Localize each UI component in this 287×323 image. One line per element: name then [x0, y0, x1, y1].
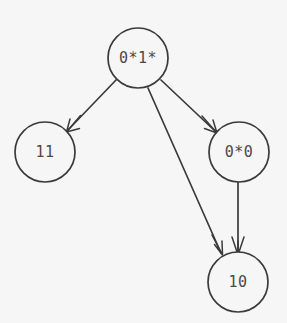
node-label: 11	[35, 143, 54, 161]
arrowhead-icon	[202, 116, 217, 133]
edge-right-to-bottom	[232, 182, 244, 255]
node-label: 0*1*	[119, 49, 157, 67]
graph-canvas: 0*1* 11 0*0 10	[0, 0, 287, 323]
node-group: 0*1* 11 0*0 10	[15, 28, 269, 312]
edge-line	[148, 88, 221, 253]
node-label: 10	[228, 273, 247, 291]
node-left[interactable]: 11	[15, 122, 75, 182]
node-label: 0*0	[225, 143, 254, 161]
node-root[interactable]: 0*1*	[108, 28, 168, 88]
arrowhead-icon	[212, 235, 223, 255]
directed-graph: 0*1* 11 0*0 10	[0, 0, 287, 323]
arrowhead-icon	[67, 116, 81, 133]
edge-line	[161, 80, 215, 131]
node-bottom[interactable]: 10	[208, 252, 268, 312]
edge-root-to-right	[161, 80, 217, 133]
node-right[interactable]: 0*0	[209, 122, 269, 182]
edge-root-to-bottom	[148, 88, 223, 255]
edge-root-to-left	[67, 79, 118, 132]
